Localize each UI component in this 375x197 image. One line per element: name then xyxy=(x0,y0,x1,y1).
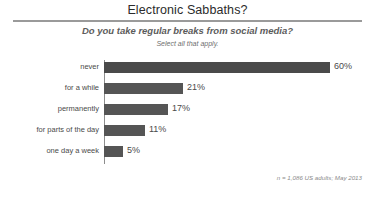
bar-never xyxy=(104,62,330,74)
bar-value-label: 17% xyxy=(172,103,190,113)
bar-category-label: one day a week xyxy=(0,146,99,155)
bar-permanently xyxy=(104,104,168,116)
bar-one-day-a-week xyxy=(104,146,123,158)
bar-for-a-while xyxy=(104,83,183,95)
bar-category-label: never xyxy=(0,62,99,71)
bar-row: never 60% xyxy=(0,58,375,78)
bar-row: for a while 21% xyxy=(0,79,375,99)
bar-row: one day a week 5% xyxy=(0,142,375,162)
bar-category-label: permanently xyxy=(0,104,99,113)
bar-value-label: 5% xyxy=(127,145,140,155)
bar-for-parts-of-the-day xyxy=(104,125,145,137)
chart-instruction: Select all that apply. xyxy=(0,40,375,47)
chart-title: Electronic Sabbaths? xyxy=(0,3,375,17)
title-divider xyxy=(13,20,362,22)
bar-category-label: for a while xyxy=(0,83,99,92)
bar-row: permanently 17% xyxy=(0,100,375,120)
bar-chart-plot: never 60% for a while 21% permanently 17… xyxy=(0,58,375,166)
chart-footnote: n = 1,086 US adults; May 2013 xyxy=(277,174,362,181)
bar-value-label: 11% xyxy=(149,124,166,134)
bar-row: for parts of the day 11% xyxy=(0,121,375,141)
chart-figure: Electronic Sabbaths? Do you take regular… xyxy=(0,0,375,197)
bar-value-label: 60% xyxy=(334,61,352,71)
bar-category-label: for parts of the day xyxy=(0,125,99,134)
bar-value-label: 21% xyxy=(187,82,205,92)
chart-subtitle: Do you take regular breaks from social m… xyxy=(0,25,375,36)
